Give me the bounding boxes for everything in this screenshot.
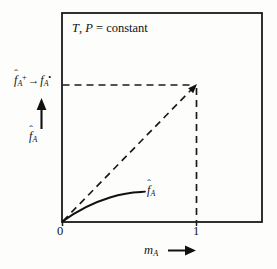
fugacity-curve <box>63 192 142 222</box>
y-tick-right-superscript: • <box>48 73 51 82</box>
y-tick-arrow-icon: → <box>27 74 40 86</box>
condition-temperature-symbol: T <box>72 21 79 35</box>
fugacity-figure: T, P = constant fA+→fA• fA fA 0 1 mA <box>0 0 277 269</box>
x-axis-tick-label-zero: 0 <box>57 225 63 238</box>
x-direction-arrowhead <box>185 245 196 255</box>
curve-subscript: A <box>151 189 156 198</box>
y-tick-left-fugacity-symbol: f <box>14 74 17 86</box>
condition-annotation: T, P = constant <box>72 22 148 35</box>
y-direction-arrowhead <box>37 98 47 110</box>
x-axis-subscript: A <box>153 249 158 258</box>
condition-pressure-symbol: P <box>85 21 93 35</box>
y-axis-label: fA <box>29 130 37 144</box>
henrys-law-dashed-line <box>63 90 191 221</box>
y-axis-fugacity-symbol: f <box>29 130 32 142</box>
x-axis-tick-label-one: 1 <box>193 225 199 238</box>
x-axis-molality-symbol: m <box>144 243 153 257</box>
figure-canvas <box>0 0 277 269</box>
curve-annotation-label: fA <box>147 184 155 198</box>
y-axis-upper-tick-label: fA+→fA• <box>14 74 51 88</box>
x-axis-label: mA <box>144 244 158 259</box>
condition-equals-constant: = constant <box>93 21 148 35</box>
curve-fugacity-symbol: f <box>147 184 150 196</box>
y-tick-right-fugacity-symbol: f <box>40 73 43 87</box>
y-axis-subscript: A <box>33 135 38 144</box>
